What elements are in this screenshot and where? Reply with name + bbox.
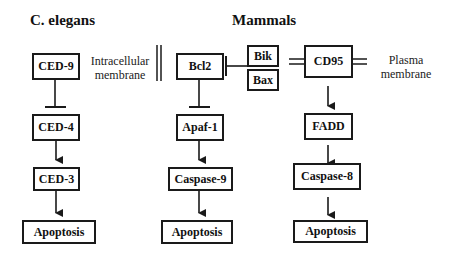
node-fadd: FADD: [304, 113, 353, 140]
node-caspase9: Caspase-9: [168, 167, 233, 191]
inhibit-ced9-ced4: [45, 79, 66, 107]
node-apoptosis-mid: Apoptosis: [161, 220, 233, 244]
intracellular-label-line1: Intracellular: [90, 54, 150, 68]
node-apaf1: Apaf-1: [176, 114, 224, 141]
node-caspase8: Caspase-8: [293, 163, 361, 190]
node-ced4: CED-4: [32, 114, 80, 141]
node-ced3: CED-3: [33, 167, 80, 191]
plasma-label-line1: Plasma: [378, 53, 434, 67]
node-bik: Bik: [247, 45, 279, 67]
node-cd95: CD95: [304, 45, 353, 78]
intracellular-label-line2: membrane: [90, 68, 150, 82]
inhibit-bcl2-apaf1: [189, 79, 210, 107]
intracellular-membrane-label: Intracellular membrane: [90, 54, 150, 82]
node-bax: Bax: [247, 69, 279, 91]
node-ced9: CED-9: [32, 53, 80, 80]
plasma-membrane-label: Plasma membrane: [378, 53, 434, 81]
inhibit-bikbax-bcl2: [226, 56, 247, 76]
node-bcl2: Bcl2: [176, 53, 224, 80]
node-apoptosis-right: Apoptosis: [293, 220, 368, 243]
intracellular-membrane-bar: [157, 45, 161, 81]
node-apoptosis-left: Apoptosis: [22, 220, 96, 244]
plasma-label-line2: membrane: [378, 67, 434, 81]
